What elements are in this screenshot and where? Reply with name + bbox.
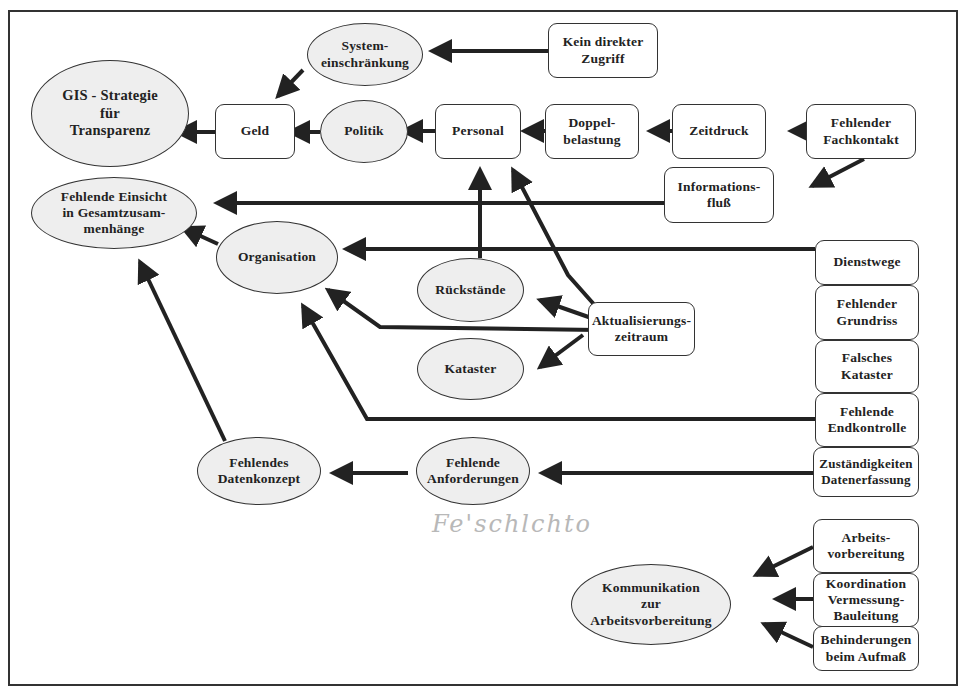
node-doppelbelastung[interactable]: Doppel- belastung (545, 104, 639, 159)
node-koordination-vermessung-bauleitung[interactable]: Koordination Vermessung- Bauleitung (813, 573, 919, 627)
node-politik[interactable]: Politik (320, 100, 408, 163)
node-rueckstaende[interactable]: Rückstände (417, 258, 524, 322)
node-systemeinschraenkung[interactable]: System- einschränkung (307, 23, 423, 86)
edge-behind-komm (764, 624, 813, 647)
node-gis-strategie[interactable]: GIS - Strategie für Transparenz (31, 60, 189, 167)
node-aktualisierungszeitraum[interactable]: Aktualisierungs- zeitraum (588, 302, 695, 356)
node-kataster[interactable]: Kataster (417, 338, 524, 400)
node-zustaendigkeiten-datenerfassung[interactable]: Zuständigkeiten Datenerfassung (813, 447, 919, 497)
node-fehlende-anforderungen[interactable]: Fehlende Anforderungen (416, 437, 530, 505)
node-fehlende-endkontrolle[interactable]: Fehlende Endkontrolle (815, 393, 919, 447)
node-fehlender-grundriss[interactable]: Fehlender Grundriss (815, 285, 919, 340)
node-dienstwege[interactable]: Dienstwege (815, 240, 919, 285)
node-personal[interactable]: Personal (435, 104, 521, 159)
node-informationsfluss[interactable]: Informations- fluß (664, 167, 774, 223)
node-kein-direkter-zugriff[interactable]: Kein direkter Zugriff (548, 23, 658, 78)
node-kommunikation-arbeitsvorbereitung[interactable]: Kommunikation zur Arbeitsvorbereitung (571, 564, 731, 645)
node-fehlendes-datenkonzept[interactable]: Fehlendes Datenkonzept (197, 437, 321, 505)
edge-endkontrolle-org (303, 306, 815, 419)
edge-system-geld (278, 70, 303, 96)
node-behinderungen-aufmass[interactable]: Behinderungen beim Aufmaß (813, 626, 919, 671)
node-zeitdruck[interactable]: Zeitdruck (672, 104, 766, 159)
edge-aktual-kataster (540, 335, 583, 367)
node-arbeitsvorbereitung[interactable]: Arbeits- vorbereitung (813, 519, 919, 573)
node-fehlender-fachkontakt[interactable]: Fehlender Fachkontakt (806, 104, 916, 159)
handwritten-note: Fe'schlchto (432, 510, 592, 538)
edge-arbeitsvorb-komm (756, 547, 813, 575)
node-geld[interactable]: Geld (215, 104, 295, 159)
node-fehlende-einsicht[interactable]: Fehlende Einsicht in Gesamtzusam- menhän… (31, 177, 197, 249)
edge-datenkonzept-einsicht (140, 262, 225, 441)
edge-fachkontakt-info (812, 159, 864, 186)
edge-org-einsicht (183, 228, 218, 244)
node-falsches-kataster[interactable]: Falsches Kataster (815, 340, 919, 393)
edge-aktual-personal (513, 170, 599, 310)
node-organisation[interactable]: Organisation (216, 221, 338, 294)
